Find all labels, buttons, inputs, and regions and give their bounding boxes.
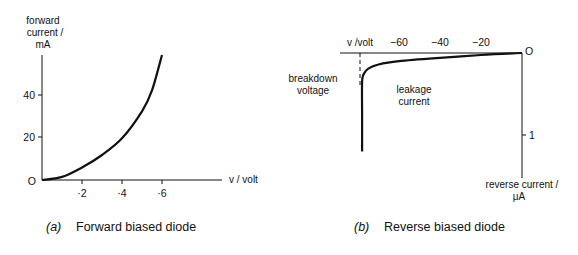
panel-b-y-tick-label-1: 1 (529, 129, 535, 141)
panel-b-origin: O (525, 45, 533, 57)
panel-a-x-tick-label-6: ·6 (157, 187, 166, 199)
panel-b-caption: Reverse biased diode (384, 220, 505, 234)
panel-a-y-label-1: forward (26, 15, 59, 26)
panel-b-x-label: v /volt (347, 37, 373, 48)
panel-a-y-tick-label-40: 40 (23, 89, 35, 101)
panel-a-caption: Forward biased diode (76, 220, 196, 234)
panel-a-y-tick-label-20: 20 (23, 131, 35, 143)
panel-b-x-tick-label-40: −40 (431, 36, 449, 48)
panel-b-reverse: v /volt −60 −40 −20 O 1 breakdown voltag… (289, 36, 559, 234)
panel-b-reverse-curve (362, 53, 522, 151)
panel-a-x-tick-label-4: ·4 (117, 187, 126, 199)
panel-b-breakdown-label-2: voltage (297, 85, 330, 96)
panel-a-forward-curve (42, 55, 162, 180)
panel-b-x-tick-label-20: −20 (472, 36, 490, 48)
panel-a-caption-letter: (a) (46, 220, 61, 234)
panel-a-origin: O (28, 175, 36, 187)
panel-b-leakage-label-1: leakage (396, 84, 431, 95)
panel-b-y-label-1: reverse current / (486, 179, 559, 190)
diode-characteristics-figure: forward current / mA 40 20 O ·2 ·4 ·6 v … (0, 0, 578, 255)
panel-b-y-label-2: μA (513, 191, 526, 202)
panel-a-x-label: v / volt (229, 174, 258, 185)
panel-a-y-label-2: current / (27, 27, 64, 38)
panel-a-x-tick-label-2: ·2 (77, 187, 86, 199)
panel-b-leakage-label-2: current (398, 96, 429, 107)
panel-b-caption-letter: (b) (354, 220, 369, 234)
panel-a-y-label-3: mA (36, 39, 51, 50)
panel-a-forward: forward current / mA 40 20 O ·2 ·4 ·6 v … (23, 15, 258, 234)
panel-b-x-tick-label-60: −60 (390, 36, 408, 48)
panel-b-breakdown-label-1: breakdown (289, 73, 338, 84)
